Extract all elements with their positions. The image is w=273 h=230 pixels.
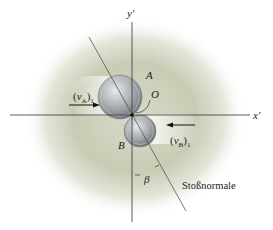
impact-normal-label: Stoßnormale	[182, 181, 236, 192]
collision-diagram: y' x' A O B (vA)1 (vB)1 β Stoßnormale	[0, 0, 273, 230]
diagram-canvas	[0, 0, 273, 230]
body-a-label: A	[146, 70, 153, 81]
coin-a	[98, 75, 142, 119]
origin-label: O	[151, 89, 159, 100]
coin-b	[124, 115, 156, 147]
y-axis-label: y'	[127, 8, 134, 19]
origin-point	[130, 113, 134, 117]
body-b-label: B	[118, 140, 125, 151]
x-axis-label: x'	[253, 110, 260, 121]
angle-beta-label: β	[144, 174, 149, 185]
velocity-a-label: (vA)1	[73, 91, 94, 105]
velocity-b-label: (vB)1	[170, 135, 190, 149]
